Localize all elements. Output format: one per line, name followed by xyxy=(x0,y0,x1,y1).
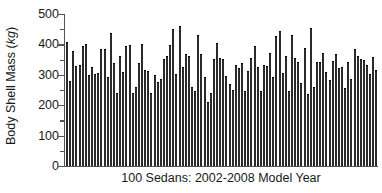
bar xyxy=(325,72,327,166)
bar xyxy=(350,79,352,166)
plot-area xyxy=(66,14,378,166)
y-tick-major xyxy=(58,136,64,137)
y-tick-major xyxy=(58,44,64,45)
bar xyxy=(291,35,293,166)
bar xyxy=(141,44,143,166)
y-axis-label-paren: ) xyxy=(4,27,18,31)
bar xyxy=(222,59,224,166)
bar xyxy=(219,58,221,166)
bar xyxy=(100,49,102,166)
bar xyxy=(97,73,99,166)
bar xyxy=(357,56,359,166)
y-tick-label: 300 xyxy=(38,69,59,82)
bar xyxy=(85,44,87,166)
y-tick-major xyxy=(58,14,64,15)
bar xyxy=(310,28,312,166)
y-axis-label-main: Body Shell Mass ( xyxy=(4,44,18,145)
bar xyxy=(147,71,149,166)
bar xyxy=(160,79,162,166)
bar xyxy=(94,74,96,166)
y-axis-label-text: Body Shell Mass (kg) xyxy=(4,27,18,145)
bar xyxy=(119,56,121,166)
bar xyxy=(107,77,109,166)
bar xyxy=(207,102,209,166)
bar xyxy=(275,36,277,167)
bar xyxy=(282,73,284,166)
bar xyxy=(225,76,227,166)
bar xyxy=(138,63,140,166)
bar xyxy=(82,46,84,166)
bar xyxy=(116,93,118,166)
y-tick-major xyxy=(58,105,64,106)
bar xyxy=(182,67,184,166)
bar xyxy=(185,54,187,166)
bar xyxy=(197,35,199,166)
bar xyxy=(91,67,93,166)
bar xyxy=(244,91,246,166)
bar xyxy=(260,91,262,166)
bar xyxy=(132,93,134,166)
bar xyxy=(200,54,202,166)
bar xyxy=(335,54,337,166)
bar xyxy=(150,93,152,166)
bar xyxy=(285,56,287,166)
y-axis-tick-labels: 0100200300400500 xyxy=(22,0,62,193)
bar xyxy=(250,58,252,166)
bar xyxy=(104,49,106,166)
bar xyxy=(354,49,356,166)
bar xyxy=(194,91,196,166)
bar xyxy=(297,62,299,166)
y-tick-minor xyxy=(60,151,64,152)
bar xyxy=(113,63,115,166)
bar xyxy=(204,77,206,166)
bar xyxy=(332,61,334,166)
bar xyxy=(154,75,156,166)
chart-figure: Body Shell Mass (kg) 0100200300400500 10… xyxy=(0,0,382,193)
bar xyxy=(122,72,124,166)
bar xyxy=(322,53,324,166)
bar xyxy=(347,62,349,166)
bar xyxy=(125,46,127,166)
bar xyxy=(372,57,374,166)
bar xyxy=(129,45,131,166)
bar xyxy=(247,71,249,166)
bar xyxy=(175,74,177,166)
bar xyxy=(210,93,212,166)
x-axis-label: 100 Sedans: 2002-2008 Model Year xyxy=(64,171,378,185)
y-tick-label: 400 xyxy=(38,38,59,51)
bar xyxy=(172,29,174,166)
bar xyxy=(300,83,302,166)
y-axis-label: Body Shell Mass (kg) xyxy=(0,0,22,172)
bar xyxy=(216,43,218,167)
bar-series xyxy=(66,14,378,166)
bar xyxy=(263,65,265,166)
bar xyxy=(272,77,274,166)
bar xyxy=(366,65,368,166)
bar xyxy=(169,45,171,166)
bar xyxy=(144,70,146,166)
bar xyxy=(344,88,346,166)
y-tick-minor xyxy=(60,29,64,30)
bar xyxy=(88,75,90,166)
bar xyxy=(319,62,321,166)
bar xyxy=(179,26,181,166)
bar xyxy=(279,31,281,166)
bar xyxy=(316,62,318,166)
bar xyxy=(338,68,340,166)
y-tick-minor xyxy=(60,90,64,91)
bar xyxy=(241,63,243,166)
bar xyxy=(363,60,365,166)
y-tick-major xyxy=(58,166,64,167)
y-tick-label: 500 xyxy=(38,8,59,21)
bar xyxy=(135,87,137,166)
bar xyxy=(69,81,71,167)
bar xyxy=(229,84,231,166)
y-tick-minor xyxy=(60,60,64,61)
bar xyxy=(166,56,168,166)
bar xyxy=(232,90,234,166)
bar xyxy=(304,48,306,166)
bar xyxy=(163,59,165,166)
bar xyxy=(360,59,362,166)
bar xyxy=(188,56,190,166)
bar xyxy=(266,66,268,166)
